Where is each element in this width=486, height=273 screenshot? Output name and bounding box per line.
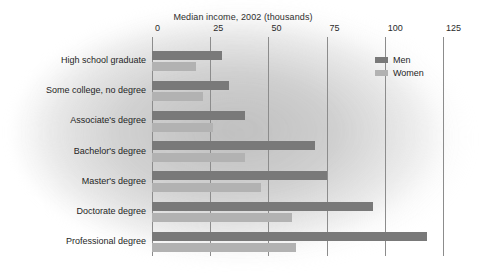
bar-women <box>152 183 261 192</box>
gridline-75 <box>327 37 328 256</box>
legend-label: Women <box>393 68 424 78</box>
x-tick-label: 0 <box>155 23 160 33</box>
chart-screenshot: Median income, 2002 (thousands) High sch… <box>0 0 486 273</box>
category-label: Professional degree <box>66 236 146 246</box>
category-label: Associate's degree <box>70 115 146 125</box>
category-label: Master's degree <box>82 176 146 186</box>
x-tick-label: 125 <box>446 23 461 33</box>
x-tick-label: 50 <box>271 23 281 33</box>
x-tick-label: 25 <box>213 23 223 33</box>
bar-men <box>152 51 222 60</box>
legend-swatch-icon <box>375 70 388 76</box>
bar-men <box>152 232 427 241</box>
chart-title: Median income, 2002 (thousands) <box>0 12 486 22</box>
category-label: Doctorate degree <box>76 206 146 216</box>
legend-swatch-icon <box>375 57 388 63</box>
bar-women <box>152 123 213 132</box>
category-axis-labels: High school graduateSome college, no deg… <box>0 45 146 256</box>
category-label: High school graduate <box>61 55 146 65</box>
bar-men <box>152 141 315 150</box>
bar-women <box>152 153 245 162</box>
bar-men <box>152 111 245 120</box>
bar-women <box>152 92 203 101</box>
bar-women <box>152 62 196 71</box>
bar-men <box>152 171 327 180</box>
bar-men <box>152 81 229 90</box>
x-tick-label: 75 <box>330 23 340 33</box>
legend-label: Men <box>393 55 411 65</box>
category-label: Bachelor's degree <box>74 146 146 156</box>
bar-women <box>152 243 296 252</box>
bar-women <box>152 213 292 222</box>
legend-item-women: Women <box>375 66 437 79</box>
chart-legend: MenWomen <box>375 53 437 79</box>
bar-men <box>152 202 373 211</box>
x-tick-label: 100 <box>388 23 403 33</box>
gridline-125 <box>443 37 444 256</box>
category-label: Some college, no degree <box>46 85 146 95</box>
legend-item-men: Men <box>375 53 437 66</box>
